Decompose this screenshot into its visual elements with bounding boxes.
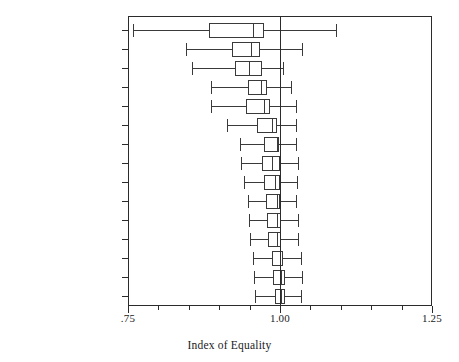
whisker-low-cap — [241, 157, 242, 170]
median-line — [272, 118, 273, 133]
whisker-high-cap — [302, 271, 303, 284]
box-iqr — [264, 175, 280, 190]
median-line — [261, 80, 262, 95]
whisker-low-line — [248, 201, 266, 202]
box-plot-series — [0, 60, 459, 77]
whisker-high-cap — [298, 214, 299, 227]
whisker-high-line — [281, 239, 298, 240]
median-line — [249, 61, 250, 76]
whisker-high-cap — [298, 233, 299, 246]
whisker-high-line — [280, 182, 297, 183]
whisker-low-line — [241, 163, 262, 164]
whisker-high-cap — [298, 157, 299, 170]
whisker-low-line — [211, 87, 247, 88]
x-axis-minor-tick — [341, 306, 342, 310]
box-plot-series — [0, 79, 459, 96]
whisker-high-line — [264, 30, 336, 31]
x-axis-minor-tick — [219, 306, 220, 310]
x-axis-minor-tick — [402, 306, 403, 310]
box-plot-series — [0, 212, 459, 229]
whisker-low-cap — [211, 100, 212, 113]
x-axis-title: Index of Equality — [0, 339, 459, 351]
whisker-low-line — [227, 125, 257, 126]
whisker-high-cap — [301, 290, 302, 303]
whisker-low-line — [250, 239, 268, 240]
whisker-low-line — [253, 258, 272, 259]
whisker-low-cap — [227, 119, 228, 132]
box-plot-series — [0, 231, 459, 248]
reference-line — [280, 16, 281, 306]
median-line — [281, 270, 282, 285]
whisker-low-cap — [192, 62, 193, 75]
median-line — [281, 289, 282, 304]
whisker-high-cap — [296, 195, 297, 208]
whisker-low-cap — [244, 176, 245, 189]
whisker-low-line — [186, 49, 232, 50]
whisker-high-line — [279, 144, 295, 145]
whisker-low-line — [244, 182, 264, 183]
box-plot-series — [0, 136, 459, 153]
whisker-low-cap — [249, 214, 250, 227]
box-plot-series — [0, 250, 459, 267]
whisker-low-line — [192, 68, 235, 69]
whisker-high-cap — [301, 252, 302, 265]
whisker-high-line — [285, 296, 301, 297]
box-plot-series — [0, 174, 459, 191]
whisker-low-line — [249, 220, 267, 221]
whisker-high-cap — [296, 119, 297, 132]
median-line — [277, 213, 278, 228]
median-line — [272, 156, 273, 171]
whisker-high-cap — [283, 62, 284, 75]
whisker-high-line — [280, 163, 298, 164]
whisker-high-line — [285, 277, 302, 278]
x-axis-minor-tick — [371, 306, 372, 310]
median-line — [277, 137, 278, 152]
box-iqr — [272, 251, 283, 266]
x-axis-minor-tick — [189, 306, 190, 310]
x-axis-tick-label: 1.25 — [402, 313, 459, 324]
whisker-low-line — [240, 144, 264, 145]
box-plot-series — [0, 98, 459, 115]
box-plot-chart: Political KnowledgeEducationParty Identi… — [0, 0, 459, 362]
whisker-low-cap — [254, 271, 255, 284]
whisker-low-cap — [240, 138, 241, 151]
whisker-high-cap — [291, 81, 292, 94]
whisker-low-line — [133, 30, 209, 31]
whisker-low-cap — [253, 252, 254, 265]
box-iqr — [246, 99, 270, 114]
median-line — [253, 23, 254, 38]
box-iqr — [209, 23, 264, 38]
whisker-low-cap — [186, 43, 187, 56]
whisker-high-cap — [296, 100, 297, 113]
median-line — [275, 175, 276, 190]
whisker-high-cap — [336, 24, 337, 37]
box-plot-series — [0, 269, 459, 286]
box-iqr — [232, 42, 260, 57]
whisker-low-cap — [248, 195, 249, 208]
box-plot-series — [0, 288, 459, 305]
x-axis-minor-tick — [158, 306, 159, 310]
whisker-high-line — [283, 258, 301, 259]
whisker-low-cap — [250, 233, 251, 246]
box-iqr — [257, 118, 277, 133]
whisker-low-cap — [133, 24, 134, 37]
x-axis-tick-label: 1.00 — [250, 313, 310, 324]
box-plot-series — [0, 22, 459, 39]
whisker-low-cap — [211, 81, 212, 94]
box-iqr — [262, 156, 280, 171]
whisker-high-line — [281, 220, 298, 221]
whisker-low-line — [254, 277, 273, 278]
box-plot-series — [0, 193, 459, 210]
whisker-low-line — [255, 296, 275, 297]
median-line — [277, 194, 278, 209]
x-axis-minor-tick — [250, 306, 251, 310]
median-line — [251, 42, 252, 57]
whisker-high-cap — [296, 138, 297, 151]
whisker-high-line — [280, 201, 296, 202]
x-axis-tick-label: .75 — [98, 313, 158, 324]
box-plot-series — [0, 117, 459, 134]
whisker-high-cap — [302, 43, 303, 56]
median-line — [277, 232, 278, 247]
whisker-high-cap — [297, 176, 298, 189]
whisker-high-line — [270, 106, 296, 107]
